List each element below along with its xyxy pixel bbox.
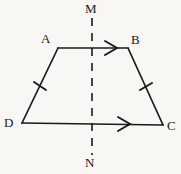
vertex-label-a: A xyxy=(41,32,50,45)
endpoint-label-n: N xyxy=(85,156,94,169)
vertex-label-c: C xyxy=(167,119,176,132)
vertex-label-d: D xyxy=(4,116,13,129)
geometry-canvas xyxy=(0,0,181,174)
geometry-figure: A B C D M N xyxy=(0,0,181,174)
congruence-tick-ad-icon xyxy=(34,82,46,90)
vertex-label-b: B xyxy=(131,33,140,46)
endpoint-label-m: M xyxy=(85,2,97,15)
